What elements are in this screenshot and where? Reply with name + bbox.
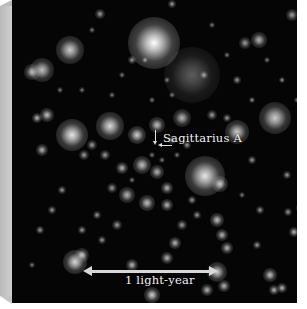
star [89,27,95,33]
star [142,57,148,63]
star [56,36,84,64]
star [253,241,261,249]
star [144,287,160,303]
star [289,227,297,237]
star [95,9,105,19]
star [294,97,297,103]
star [210,213,224,227]
star [36,226,44,234]
frame-bevel-left [0,6,12,296]
star [48,206,56,214]
star [164,77,170,83]
star [239,192,245,198]
star [263,268,277,282]
star [107,183,117,193]
star [87,140,97,150]
star [149,152,155,158]
star [75,248,89,262]
star [239,37,251,49]
star [112,220,122,230]
star [221,242,233,254]
marker-arrow-vertical [155,130,156,141]
star [286,9,297,21]
star [159,157,165,163]
scale-arrow-right-icon [209,266,218,276]
star [251,32,267,48]
star [256,206,264,214]
star [207,110,217,120]
star [264,57,270,63]
star [169,237,181,249]
star [177,220,187,230]
star [93,211,101,219]
star [128,56,136,64]
star [284,208,292,216]
star [98,236,106,244]
star [128,126,146,144]
scale-label: 1 light-year [125,273,195,287]
star [96,112,124,140]
star [233,76,241,84]
star [259,102,291,134]
star [36,144,48,156]
star [24,64,40,80]
star [193,211,201,219]
star [277,283,287,293]
star [200,71,208,79]
star [248,156,256,164]
star [100,150,110,160]
star [79,87,85,93]
star [40,108,54,122]
star [223,114,231,122]
star [201,284,213,296]
star [224,52,230,58]
star [279,77,285,83]
star [168,0,176,8]
star [149,97,155,103]
star [79,150,89,160]
star [283,171,291,179]
star [133,156,151,174]
star [174,152,180,158]
star [116,162,128,174]
star [129,177,135,183]
star [173,109,191,127]
star [109,92,115,98]
star [249,97,255,103]
star [150,165,164,179]
star [161,252,173,264]
marker-arrowhead-left [158,143,162,147]
star [119,187,135,203]
marker-arrow-horizontal [162,145,172,146]
star [139,195,155,211]
star [161,182,173,194]
star [161,199,173,211]
star [78,226,86,234]
star [56,119,88,151]
frame-bevel-bottom [0,296,12,304]
star [29,262,35,268]
star-field-image: Sagittarius A 1 light-year [12,0,297,303]
star [57,87,63,93]
star [296,204,297,212]
star [58,186,66,194]
star [218,280,230,292]
star [209,22,215,28]
star [216,229,228,241]
star [32,113,42,123]
star [169,92,175,98]
star [212,176,228,192]
sagittarius-a-label: Sagittarius A [163,131,242,145]
star [119,72,125,78]
star [188,196,196,204]
marker-arrowhead-down [153,141,157,145]
